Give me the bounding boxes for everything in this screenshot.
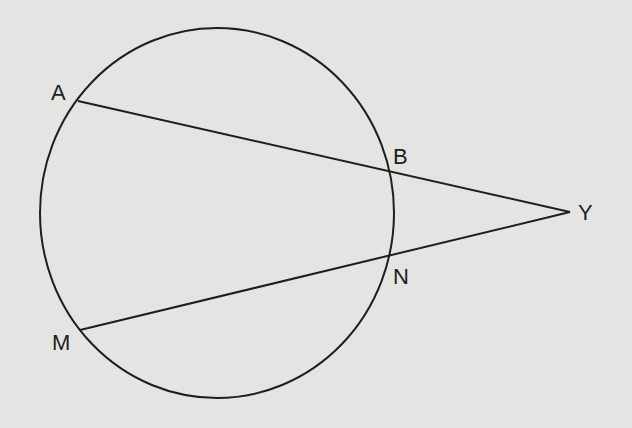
label-B: B [393,144,408,169]
label-M: M [52,330,70,355]
label-A: A [51,80,66,105]
secant-AY [78,101,570,212]
label-Y: Y [578,200,593,225]
secant-diagram: A B N M Y [0,0,632,428]
label-N: N [393,264,409,289]
circle [40,28,394,398]
secant-MY [80,212,570,330]
